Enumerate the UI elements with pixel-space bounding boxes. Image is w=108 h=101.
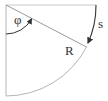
radius-label: R bbox=[65, 43, 74, 58]
angle-label: φ bbox=[14, 12, 22, 27]
arc-label: s bbox=[98, 16, 103, 31]
outer-arc bbox=[6, 47, 87, 96]
quarter-circle-diagram: φ s R bbox=[0, 0, 108, 101]
arc-s bbox=[88, 5, 96, 43]
